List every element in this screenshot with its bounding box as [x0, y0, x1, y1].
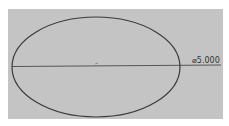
- center-mark: [95, 63, 98, 64]
- ellipse-shape[interactable]: [12, 17, 180, 117]
- diameter-dimension-label[interactable]: ⌀5.000: [192, 56, 220, 65]
- dimension-line[interactable]: [12, 65, 221, 67]
